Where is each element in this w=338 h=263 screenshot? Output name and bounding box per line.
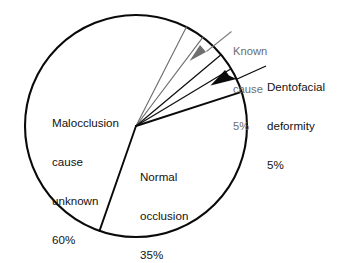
slice-label-normal-occlusion: Normal occlusion 35%: [140, 144, 188, 263]
slice-label-known-line2: cause: [233, 83, 267, 96]
slice-label-known-line1: Known: [233, 45, 267, 58]
slice-label-dentofacial-line2: deformity: [267, 119, 325, 132]
slice-label-normal-value: 35%: [140, 248, 188, 261]
slice-label-malocclusion-value: 60%: [52, 233, 119, 246]
slice-label-dentofacial-value: 5%: [267, 158, 325, 171]
slice-label-malocclusion-line2: cause: [52, 155, 119, 168]
slice-label-dentofacial-deformity: Dentofacial deformity 5%: [267, 54, 325, 197]
slice-label-malocclusion: Malocclusion cause unknown 60%: [52, 90, 119, 263]
slice-label-dentofacial-line1: Dentofacial: [267, 80, 325, 93]
slice-label-known-value: 5%: [233, 120, 267, 133]
slice-label-malocclusion-line3: unknown: [52, 194, 119, 207]
slice-label-normal-line1: Normal: [140, 170, 188, 183]
slice-label-normal-line2: occlusion: [140, 209, 188, 222]
slice-label-known-cause: Known cause 5%: [233, 20, 267, 158]
slice-label-malocclusion-line1: Malocclusion: [52, 116, 119, 129]
